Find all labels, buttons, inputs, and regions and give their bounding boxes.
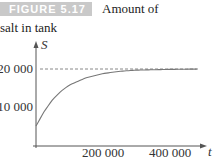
axes: St [33,37,212,159]
y-axis-label: S [41,37,48,52]
salt-chart: St 10 00020 000200 000400 000 [0,0,222,160]
x-axis-label: t [208,144,212,159]
curve-group [36,69,197,126]
y-tick-label: 20 000 [0,61,33,76]
y-tick-label: 10 000 [0,99,33,114]
x-tick-label: 400 000 [149,145,191,160]
series-line [36,69,197,126]
y-axis-arrow [34,41,39,48]
x-axis-arrow [200,144,207,149]
x-tick-label: 200 000 [82,145,124,160]
